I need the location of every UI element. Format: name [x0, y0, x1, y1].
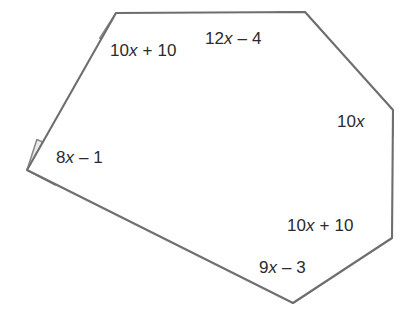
angle-label-right-upper: 10x: [337, 112, 365, 131]
angle-label-top-right: 12x – 4: [205, 29, 261, 48]
angle-label-top-left: 10x + 10: [110, 41, 177, 60]
angle-label-bottom: 9x – 3: [259, 258, 306, 277]
geometry-figure: 10x + 10 12x – 4 10x 10x + 10 9x – 3 8x …: [0, 0, 411, 330]
angle-label-left: 8x – 1: [56, 148, 103, 167]
angle-label-right-lower: 10x + 10: [287, 216, 354, 235]
